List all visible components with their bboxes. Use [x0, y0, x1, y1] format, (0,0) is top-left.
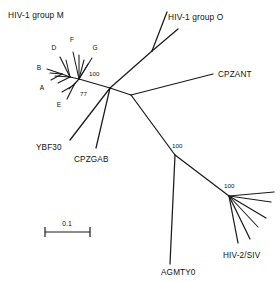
hiv2-hub-stem	[175, 155, 229, 196]
group-m-tip-a2	[51, 74, 62, 80]
label-hiv2-siv: HIV-2/SIV	[223, 251, 261, 260]
label-hiv1-group-o: HIV-1 group O	[168, 12, 224, 22]
group-m-tip-extra-3	[69, 79, 79, 89]
group-m-tip-extra-1	[79, 60, 84, 79]
cpzant-clade	[131, 74, 213, 95]
support-value-hiv2-hub-100: 100	[224, 182, 235, 189]
phylogenetic-tree-figure: 0.1 HIV-1 group M HIV-1 group O CPZANT Y…	[0, 0, 280, 282]
hiv2-tip-6	[229, 196, 258, 227]
label-subtype-a: A	[40, 84, 45, 91]
scale-bar-label: 0.1	[62, 220, 72, 227]
label-cpzant: CPZANT	[218, 70, 252, 79]
label-subtype-d: D	[52, 44, 57, 51]
agmty0-branch	[170, 155, 175, 264]
hiv2-tip-5	[229, 196, 238, 243]
taxon-label-group: HIV-1 group M HIV-1 group O CPZANT YBF30…	[8, 10, 261, 277]
core-branches	[70, 88, 131, 148]
group-m-tip-d2	[66, 60, 70, 77]
center-to-right-internal	[110, 88, 131, 95]
tree-canvas: 0.1 HIV-1 group M HIV-1 group O CPZANT Y…	[0, 0, 280, 282]
hiv2-siv-clade	[131, 95, 274, 264]
group-m-tip-a	[58, 77, 70, 83]
group-m-clade	[47, 52, 110, 99]
label-ybf30: YBF30	[36, 143, 62, 152]
hiv2-tip-2	[229, 196, 271, 202]
group-o-stem	[110, 51, 152, 88]
label-subtype-b: B	[37, 64, 42, 71]
scale-bar: 0.1	[45, 220, 90, 237]
label-subtype-g: G	[92, 44, 97, 51]
support-value-group-m-77: 77	[80, 90, 87, 97]
hiv2-siv-stem	[131, 95, 175, 155]
label-hiv1-group-m: HIV-1 group M	[8, 10, 64, 20]
group-m-stem	[79, 79, 110, 88]
cpzant-branch	[131, 74, 213, 95]
group-m-tip-f	[73, 52, 79, 79]
hiv2-tip-1	[229, 192, 274, 196]
support-value-hiv2-stem-100: 100	[172, 142, 183, 149]
group-m-internal-1	[70, 77, 79, 79]
label-subtype-f: F	[70, 36, 74, 43]
label-cpzgab: CPZGAB	[74, 155, 109, 164]
label-subtype-e: E	[57, 101, 62, 108]
group-m-tip-g2	[79, 64, 88, 79]
label-agmty0: AGMTY0	[161, 268, 196, 277]
group-o-clade	[110, 12, 178, 88]
support-value-group-m-100: 100	[89, 70, 100, 77]
